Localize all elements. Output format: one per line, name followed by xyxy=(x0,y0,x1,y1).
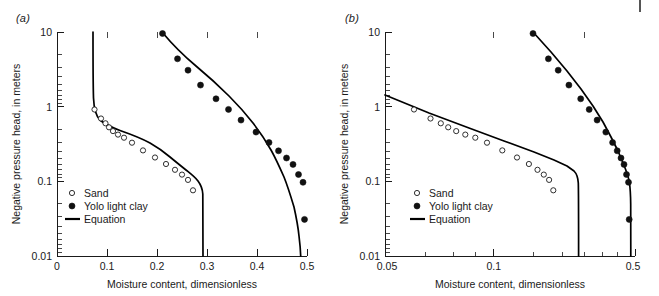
y-axis-title-b: Negative pressure head, in meters xyxy=(338,64,350,225)
x-axis-title-a: Moisture content, dimensionless xyxy=(107,278,257,290)
legend-marker-sand-a xyxy=(69,190,74,195)
y-tick-label-b-1: 1 xyxy=(374,101,380,113)
x-tick-label-a-0.1: 0.1 xyxy=(100,260,115,272)
y-major-ticks-b xyxy=(385,32,392,256)
panel-b-plot: 10 1 0.1 0.01 0.05 0.1 0.5 Moisture cont… xyxy=(329,0,659,296)
y-tick-label-b-0.1: 0.1 xyxy=(365,175,380,187)
y-minor-ticks-b xyxy=(385,55,390,253)
x-tick-label-b-0.1: 0.1 xyxy=(486,260,501,272)
y-axis-title-a: Negative pressure head, in meters xyxy=(10,64,22,225)
data-points-sand-a xyxy=(92,107,196,193)
y-tick-label-a-1: 1 xyxy=(46,101,52,113)
legend-label-clay-a: Yolo light clay xyxy=(84,200,149,212)
legend-label-sand-a: Sand xyxy=(84,187,109,199)
x-axis-title-b: Moisture content, dimensionless xyxy=(435,278,585,290)
panel-a-plot: 10 1 0.1 0.01 0 0.1 0.2 0.3 0.4 0.5 Mois… xyxy=(0,0,330,296)
data-points-sand-b xyxy=(411,107,556,193)
legend-b: Sand Yolo light clay Equation xyxy=(410,187,494,225)
data-points-clay-a xyxy=(160,31,308,223)
figure-container: (a) xyxy=(0,0,659,296)
legend-label-equation-a: Equation xyxy=(84,213,126,225)
x-tick-label-a-0: 0 xyxy=(54,260,60,272)
y-tick-label-b-10: 10 xyxy=(368,26,380,38)
y-tick-label-a-10: 10 xyxy=(40,26,52,38)
chart-panel-b: (b) xyxy=(329,0,659,296)
legend-marker-clay-b xyxy=(414,203,420,209)
y-tick-label-a-0.01: 0.01 xyxy=(32,250,53,262)
legend-marker-clay-a xyxy=(69,203,75,209)
x-tick-label-b-0.5: 0.5 xyxy=(626,260,641,272)
equation-curve-sand-b xyxy=(385,95,579,256)
x-tick-label-a-0.4: 0.4 xyxy=(250,260,265,272)
legend-label-clay-b: Yolo light clay xyxy=(429,200,494,212)
equation-curve-clay-b xyxy=(533,32,631,256)
y-tick-label-a-0.1: 0.1 xyxy=(37,175,52,187)
x-tick-label-a-0.2: 0.2 xyxy=(150,260,165,272)
x-tick-label-a-0.3: 0.3 xyxy=(200,260,215,272)
x-tick-label-a-0.5: 0.5 xyxy=(300,260,315,272)
y-minor-ticks-a xyxy=(57,55,62,253)
data-points-clay-b xyxy=(530,31,632,223)
legend-a: Sand Yolo light clay Equation xyxy=(65,187,149,225)
equation-curve-clay-a xyxy=(162,32,301,256)
legend-label-equation-b: Equation xyxy=(429,213,471,225)
chart-panel-a: (a) xyxy=(0,0,330,296)
legend-label-sand-b: Sand xyxy=(429,187,454,199)
y-major-ticks-a xyxy=(57,32,64,256)
x-tick-label-b-0.05: 0.05 xyxy=(377,260,398,272)
legend-marker-sand-b xyxy=(414,190,419,195)
